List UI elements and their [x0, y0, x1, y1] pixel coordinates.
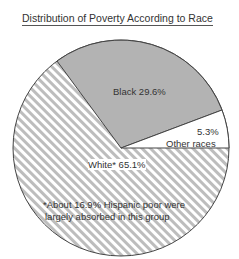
- label-black: Black 29.6%: [113, 86, 166, 97]
- label-other-name: Other races: [166, 138, 216, 149]
- label-other-pct: 5.3%: [197, 126, 219, 137]
- note-line-1: *About 16.9% Hispanic poor were: [43, 199, 185, 210]
- note-line-2: largely absorbed in this group: [45, 211, 170, 222]
- label-white: White* 65.1%: [88, 159, 146, 170]
